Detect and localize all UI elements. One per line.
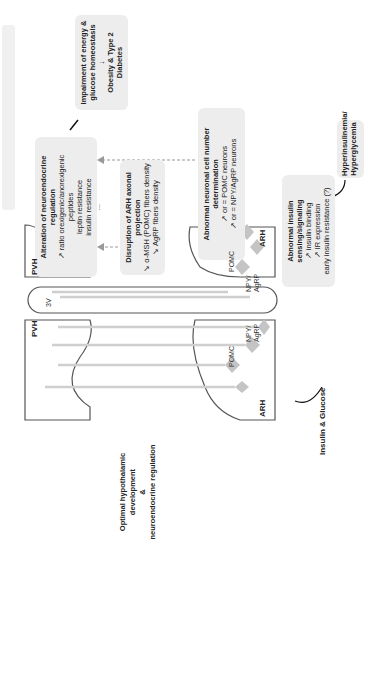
pomc-label-left: POMC xyxy=(228,346,235,367)
pomc-label-right: POMC xyxy=(228,251,235,272)
impairment-box: Impairment of energy & glucose homeostas… xyxy=(75,15,128,110)
alteration-line: ↗ ratio orexigenic/anorexigenic peptides xyxy=(57,140,75,274)
npy-label-right: NPY/ AgRP xyxy=(245,274,261,292)
insulin-sensing-line: ↗ IR expression xyxy=(313,178,322,284)
npy-text: NPY/ xyxy=(245,324,253,342)
disruption-line: ↘ AgRP fibers density xyxy=(151,163,160,272)
alteration-line: leptin resistance xyxy=(75,140,84,274)
optimal-line-2: & xyxy=(138,437,148,547)
neuronal-title: Abnormal neuronal cell number determinat… xyxy=(202,111,220,257)
hyper-line-1: Hyperinsulinemia/ xyxy=(340,122,349,176)
insulin-sensing-box: Abnormal insulin sensing/signaling ↗ ins… xyxy=(282,175,335,287)
neuronal-line: ↗ or = POMC neurons xyxy=(220,111,229,257)
insulin-sensing-line: early insulin resistance (?) xyxy=(322,178,331,284)
insulin-sensing-title: Abnormal insulin sensing/signaling xyxy=(286,178,304,284)
disruption-title: Disruption of ARH axonal projection xyxy=(124,163,142,272)
arh-label-right: ARH xyxy=(258,230,267,247)
pvh-label-left: PVH xyxy=(30,321,39,337)
impairment-result: Obesity & Type 2 Diabetes xyxy=(106,18,124,107)
optimal-line-1: Optimal hypothalamic development xyxy=(118,437,138,547)
npy-label-left: NPY/ AgRP xyxy=(245,324,261,342)
top-bar xyxy=(2,25,15,210)
impairment-title-2: glucose homeostasis xyxy=(88,18,97,107)
arh-label-left: ARH xyxy=(258,400,267,417)
axons-right xyxy=(52,292,250,297)
alteration-line: insulin resistance xyxy=(84,140,93,274)
pvh-label-right: PVH xyxy=(30,259,39,275)
agrp-text: AgRP xyxy=(253,324,261,342)
hyper-line-2: Hyperglycemia xyxy=(349,122,358,176)
third-ventricle-label: 3V xyxy=(45,298,52,307)
insulin-sensing-line: ↗ insulin binding xyxy=(304,178,313,284)
impairment-title-1: Impairment of energy & xyxy=(79,18,88,107)
disruption-line: ↘ α-MSH (POMC) fibers density xyxy=(142,163,151,272)
agrp-text: AgRP xyxy=(253,274,261,292)
alteration-box: Alteration of neuroendocrine regulation … xyxy=(35,137,97,277)
axons-left xyxy=(45,327,258,387)
down-arrow-icon: ↓ xyxy=(97,18,106,107)
diagram-shapes xyxy=(0,0,368,687)
insulin-glucose-label: Insulin & Glucose xyxy=(318,387,327,455)
arrow-to-impairment xyxy=(70,120,78,130)
neuronal-line: ↗ or = NPY/AgRP neurons xyxy=(229,111,238,257)
diagram-stage: Impairment of energy & glucose homeostas… xyxy=(0,0,368,687)
alteration-line: ... xyxy=(93,140,102,274)
optimal-label: Optimal hypothalamic development & neuro… xyxy=(118,437,158,547)
npy-text: NPY/ xyxy=(245,274,253,292)
disruption-box: Disruption of ARH axonal projection ↘ α-… xyxy=(120,160,165,275)
hyper-box: Hyperinsulinemia/ Hyperglycemia xyxy=(337,120,364,178)
alteration-title: Alteration of neuroendocrine regulation xyxy=(39,140,57,274)
optimal-line-3: neuroendocrine regulation xyxy=(148,437,158,547)
neuronal-box: Abnormal neuronal cell number determinat… xyxy=(198,108,245,260)
